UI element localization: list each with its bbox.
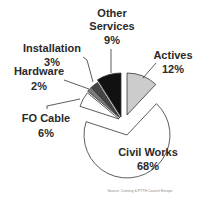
leader-line-hardware <box>64 80 89 89</box>
label-hardware-value: 2% <box>31 80 47 92</box>
pie-chart: Other Services 9% Actives 12% Installati… <box>0 0 210 203</box>
label-fo-cable-value: 6% <box>38 127 54 139</box>
leader-line-actives <box>143 63 156 78</box>
label-actives-name: Actives <box>153 49 192 61</box>
label-fo-cable: FO Cable 6% <box>22 112 70 139</box>
label-other-services: Other Services 9% <box>89 7 134 46</box>
label-other-services-line2: Services <box>89 20 134 32</box>
leader-line-fo-cable <box>47 99 80 109</box>
label-civil-works-name: Civil Works <box>118 146 178 158</box>
label-installation-name: Installation <box>23 42 81 54</box>
label-actives-value: 12% <box>162 63 184 75</box>
label-other-services-value: 9% <box>104 34 120 46</box>
label-other-services-line1: Other <box>97 7 127 19</box>
label-actives: Actives 12% <box>153 49 192 75</box>
label-fo-cable-name: FO Cable <box>22 112 70 124</box>
label-civil-works-value: 68% <box>137 160 159 172</box>
label-hardware: Hardware 2% <box>14 65 64 92</box>
leader-line-installation <box>83 57 93 82</box>
source-note: Source: Corning & FTTH Council Europe <box>107 189 172 193</box>
label-hardware-name: Hardware <box>14 65 64 77</box>
